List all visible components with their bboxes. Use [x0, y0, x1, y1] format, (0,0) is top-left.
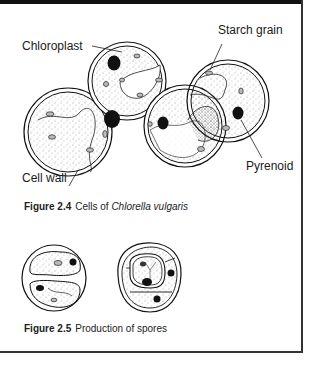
cell-right	[187, 60, 269, 142]
starch-grain	[87, 148, 94, 152]
label-chloroplast: Chloroplast	[22, 39, 83, 53]
figure-2-4-caption: Figure 2.4Cells of Chlorella vulgaris	[24, 201, 188, 212]
starch-grain	[104, 82, 109, 87]
starch-grain	[49, 135, 56, 139]
figure-2-5-caption: Figure 2.5Production of spores	[24, 323, 167, 334]
label-pyrenoid: Pyrenoid	[246, 159, 293, 173]
pyrenoid	[108, 56, 121, 71]
starch-grain	[103, 131, 107, 138]
figure-2-4-number: Figure 2.4	[24, 201, 71, 212]
label-starch-grain: Starch grain	[218, 23, 283, 37]
figure-2-4-species: Chlorella vulgaris	[111, 201, 188, 212]
starch-grain	[137, 93, 143, 97]
starch-grain	[120, 78, 125, 82]
starch-grain	[148, 122, 153, 127]
figure-2-5-caption-text: Production of spores	[75, 323, 167, 334]
figure-2-5-number: Figure 2.5	[24, 323, 71, 334]
starch-grain	[156, 78, 163, 82]
figure-2-4-caption-text: Cells of	[75, 201, 111, 212]
spore-four-daughters	[118, 243, 181, 312]
starch-grain	[134, 54, 140, 58]
label-cell-wall: Cell wall	[22, 171, 67, 185]
starch-grain	[206, 71, 213, 75]
pyrenoid	[158, 117, 169, 130]
starch-grain	[239, 88, 243, 94]
starch-grain	[46, 112, 54, 116]
pyrenoid	[104, 110, 120, 128]
spore-two-daughters	[22, 245, 86, 311]
starch-grain	[223, 126, 230, 131]
pyrenoid	[233, 107, 244, 120]
starch-grain	[198, 147, 205, 152]
